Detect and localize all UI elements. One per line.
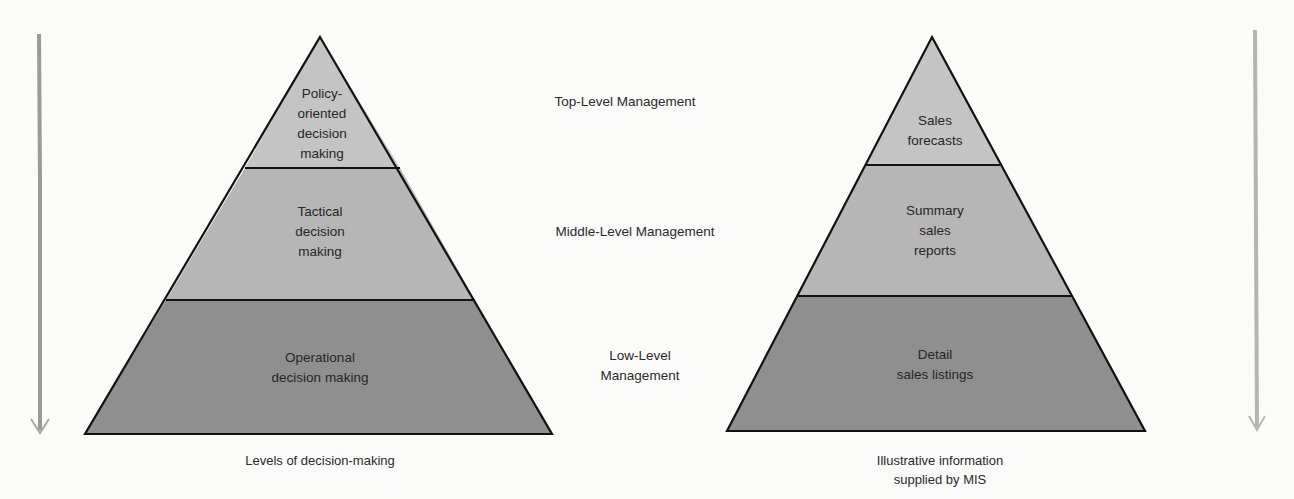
right-top-segment-label: Sales forecasts [880,111,990,151]
left-down-arrow-icon [31,34,49,433]
right-pyramid-caption: Illustrative information supplied by MIS [820,451,1060,489]
right-bottom-segment-label: Detail sales listings [860,345,1010,385]
right-middle-segment-label: Summary sales reports [870,201,1000,261]
left-bottom-segment-label: Operational decision making [230,348,410,388]
middle-level-management-label: Middle-Level Management [510,222,760,242]
low-level-management-label: Low-Level Management [570,346,710,386]
top-level-management-label: Top-Level Management [520,92,730,112]
diagram-canvas [0,0,1294,499]
left-middle-segment-label: Tactical decision making [250,202,390,262]
left-pyramid-caption: Levels of decision-making [190,451,450,470]
right-down-arrow-icon [1249,30,1265,430]
left-top-segment-label: Policy- oriented decision making [270,84,374,164]
